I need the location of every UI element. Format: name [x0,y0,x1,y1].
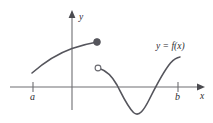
function-graph-figure: y x a b y = f(x) [0,0,213,123]
y-axis-arrow-icon [69,10,76,18]
curve-right-branch [100,57,181,114]
filled-endpoint-dot [94,39,101,46]
function-label: y = f(x) [155,41,185,52]
tick-label-a: a [30,91,35,102]
graph-canvas: y x a b y = f(x) [0,0,213,123]
open-endpoint-circle [95,65,101,71]
x-axis-arrow-icon [197,83,205,90]
x-axis-label: x [199,91,205,101]
y-axis-label: y [78,12,84,22]
curve-left-branch [32,42,96,73]
tick-label-b: b [175,91,180,102]
